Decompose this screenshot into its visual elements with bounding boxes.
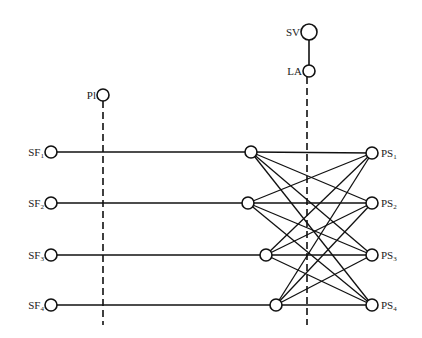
node-m1 [245, 146, 257, 158]
nodes [45, 24, 378, 311]
node-sf2 [45, 197, 57, 209]
label-pl: Pl [87, 89, 96, 101]
node-sf3 [45, 249, 57, 261]
label-sf2: SF2 [28, 197, 44, 211]
node-la [303, 65, 315, 77]
label-sv: SV [286, 26, 300, 38]
edges [51, 40, 372, 305]
label-sf3: SF3 [28, 249, 44, 263]
edge-m1-ps4 [251, 152, 372, 305]
label-la: LA [287, 65, 302, 77]
node-sv [301, 24, 317, 40]
dashed-lines [103, 77, 307, 325]
edge-m3-ps2 [266, 203, 372, 255]
edge-m2-ps3 [248, 203, 372, 255]
edge-m1-ps1 [251, 152, 372, 153]
node-sf1 [45, 146, 57, 158]
label-sf4: SF4 [28, 299, 44, 313]
label-ps2: PS2 [381, 197, 397, 211]
label-ps3: PS3 [381, 249, 397, 263]
node-pl [97, 89, 109, 101]
node-m3 [260, 249, 272, 261]
node-ps3 [366, 249, 378, 261]
node-m4 [270, 299, 282, 311]
network-diagram: SVLAPlSF1SF2SF3SF4PS1PS2PS3PS4 [0, 0, 422, 338]
node-ps4 [366, 299, 378, 311]
node-m2 [242, 197, 254, 209]
edge-m3-ps4 [266, 255, 372, 305]
node-sf4 [45, 299, 57, 311]
label-sf1: SF1 [28, 146, 44, 160]
edge-m4-ps2 [276, 203, 372, 305]
edge-m3-ps1 [266, 153, 372, 255]
node-ps2 [366, 197, 378, 209]
label-ps4: PS4 [381, 299, 397, 313]
label-ps1: PS1 [381, 147, 397, 161]
node-ps1 [366, 147, 378, 159]
